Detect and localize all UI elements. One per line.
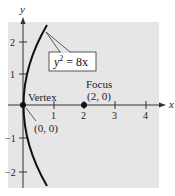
y-tick-label: −1 bbox=[5, 133, 16, 144]
y-tick-label: 2 bbox=[10, 37, 15, 48]
y-axis-label: y bbox=[19, 3, 25, 15]
vertex-label: Vertex bbox=[28, 91, 57, 103]
x-tick-label: 4 bbox=[143, 110, 148, 121]
y-tick-label: −2 bbox=[5, 167, 16, 178]
x-tick-label: 2 bbox=[81, 110, 86, 121]
x-axis-label: x bbox=[168, 98, 174, 110]
x-tick-label: 3 bbox=[112, 110, 117, 121]
focus-point bbox=[81, 102, 87, 108]
y-tick-label: 1 bbox=[10, 69, 15, 80]
focus-coord-label: (2, 0) bbox=[87, 90, 111, 103]
vertex-point bbox=[20, 102, 26, 108]
vertex-coord-label: (0, 0) bbox=[34, 122, 58, 135]
focus-label: Focus bbox=[86, 78, 112, 90]
y-axis-arrow-icon bbox=[21, 17, 26, 24]
x-tick-label: 1 bbox=[51, 110, 56, 121]
x-axis-arrow-icon bbox=[159, 103, 166, 108]
parabola-chart: x y 1 2 3 4 2 1 −1 −2 y2 = 8x Vertex (0,… bbox=[0, 0, 175, 196]
equation-label: y2 = 8x bbox=[53, 54, 88, 69]
